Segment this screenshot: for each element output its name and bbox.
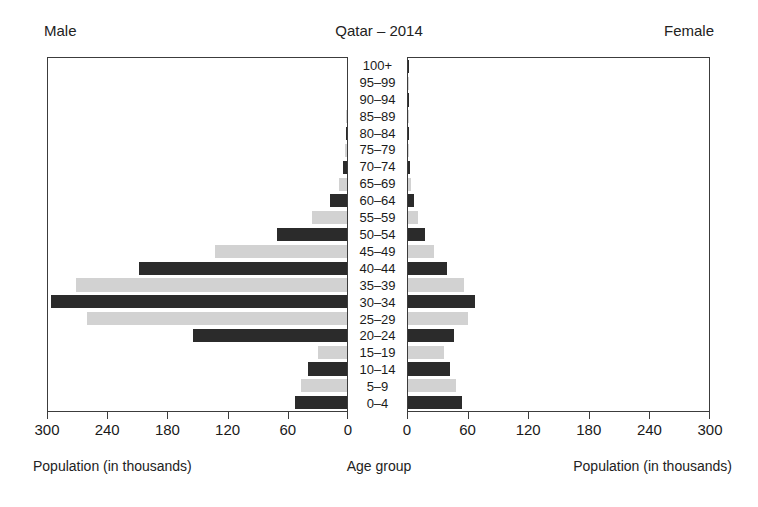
male-bar-row — [48, 159, 347, 176]
male-bar-row — [48, 58, 347, 75]
female-bar[interactable] — [408, 295, 475, 308]
female-bar-row — [408, 277, 709, 294]
age-group-column: 100+95–9990–9485–8980–8475–7970–7465–696… — [348, 57, 407, 412]
age-group-label: 75–79 — [348, 142, 407, 159]
female-bar-row — [408, 226, 709, 243]
female-bar[interactable] — [408, 346, 444, 359]
female-bar[interactable] — [408, 110, 409, 123]
male-bar-row — [48, 277, 347, 294]
female-bar-row — [408, 377, 709, 394]
female-bar-row — [408, 243, 709, 260]
female-bar[interactable] — [408, 245, 434, 258]
female-plot-area — [407, 57, 710, 412]
male-bar-rows — [48, 58, 347, 411]
male-bar-row — [48, 125, 347, 142]
male-bar-row — [48, 142, 347, 159]
female-bar-row — [408, 176, 709, 193]
male-axis-tick-label: 120 — [215, 421, 240, 438]
female-bar[interactable] — [408, 396, 462, 409]
female-bar[interactable] — [408, 329, 454, 342]
male-bar-row — [48, 293, 347, 310]
female-bar[interactable] — [408, 379, 456, 392]
male-axis-tick — [347, 412, 348, 419]
female-bar[interactable] — [408, 312, 468, 325]
female-axis-caption: Population (in thousands) — [573, 458, 732, 474]
male-bar-row — [48, 344, 347, 361]
male-bar[interactable] — [193, 329, 347, 342]
female-bar[interactable] — [408, 161, 410, 174]
female-axis-tick-label: 120 — [516, 421, 541, 438]
male-bar-row — [48, 327, 347, 344]
male-axis-tick-label: 60 — [279, 421, 296, 438]
male-bar[interactable] — [346, 110, 347, 123]
age-group-label: 95–99 — [348, 74, 407, 91]
female-bar[interactable] — [408, 127, 409, 140]
age-group-label: 90–94 — [348, 91, 407, 108]
male-bar[interactable] — [345, 144, 347, 157]
male-bar[interactable] — [343, 161, 347, 174]
male-bar[interactable] — [318, 346, 347, 359]
female-axis-tick-label: 180 — [576, 421, 601, 438]
male-bar[interactable] — [330, 194, 347, 207]
female-bar-row — [408, 293, 709, 310]
female-x-axis: 060120180240300 — [407, 412, 710, 442]
male-bar-row — [48, 226, 347, 243]
female-bar[interactable] — [408, 228, 425, 241]
female-bar[interactable] — [408, 194, 414, 207]
female-panel-label: Female — [664, 22, 714, 39]
male-bar[interactable] — [312, 211, 347, 224]
female-bar[interactable] — [408, 362, 450, 375]
male-bar-row — [48, 394, 347, 411]
female-bar[interactable] — [408, 178, 411, 191]
age-group-label: 15–19 — [348, 344, 407, 361]
male-bar[interactable] — [295, 396, 347, 409]
male-axis-tick — [167, 412, 168, 419]
male-bar-row — [48, 108, 347, 125]
age-group-label: 65–69 — [348, 175, 407, 192]
female-axis-tick — [468, 412, 469, 419]
female-bar[interactable] — [408, 211, 418, 224]
female-bar-row — [408, 125, 709, 142]
female-bar-row — [408, 75, 709, 92]
male-axis-tick — [47, 412, 48, 419]
male-bar[interactable] — [215, 245, 347, 258]
age-group-label: 80–84 — [348, 125, 407, 142]
male-bar[interactable] — [139, 262, 347, 275]
age-group-label: 5–9 — [348, 378, 407, 395]
male-bar[interactable] — [76, 278, 347, 291]
age-group-label: 100+ — [348, 57, 407, 74]
female-axis-tick — [589, 412, 590, 419]
male-bar[interactable] — [346, 127, 347, 140]
age-group-label: 85–89 — [348, 108, 407, 125]
male-bar-row — [48, 377, 347, 394]
male-bar[interactable] — [51, 295, 347, 308]
female-bar[interactable] — [408, 144, 409, 157]
age-group-label: 35–39 — [348, 277, 407, 294]
male-bar-row — [48, 243, 347, 260]
male-axis-tick-label: 300 — [34, 421, 59, 438]
male-bar-row — [48, 193, 347, 210]
female-bar-row — [408, 260, 709, 277]
age-group-label: 45–49 — [348, 243, 407, 260]
female-bar-row — [408, 108, 709, 125]
male-bar-row — [48, 260, 347, 277]
male-bar[interactable] — [87, 312, 347, 325]
male-bar[interactable] — [301, 379, 347, 392]
age-group-label: 55–59 — [348, 209, 407, 226]
age-group-label: 0–4 — [348, 395, 407, 412]
male-bar[interactable] — [277, 228, 347, 241]
female-bar-row — [408, 142, 709, 159]
male-plot-area — [47, 57, 348, 412]
female-bar[interactable] — [408, 262, 447, 275]
age-group-label: 40–44 — [348, 260, 407, 277]
age-group-label: 60–64 — [348, 192, 407, 209]
female-axis-tick-label: 300 — [697, 421, 722, 438]
male-bar[interactable] — [339, 178, 347, 191]
female-bar[interactable] — [408, 278, 464, 291]
female-axis-tick — [407, 412, 408, 419]
population-pyramid-figure: Male Qatar – 2014 Female 100+95–9990–948… — [0, 0, 758, 507]
male-bar-row — [48, 310, 347, 327]
male-bar[interactable] — [308, 362, 347, 375]
female-bar-row — [408, 58, 709, 75]
female-bar-row — [408, 361, 709, 378]
